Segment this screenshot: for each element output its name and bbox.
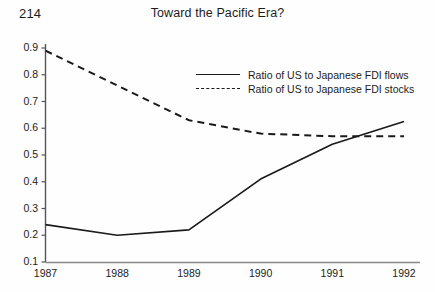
chart-svg [0, 0, 435, 292]
y-axis-tick-label: 0.2 [12, 228, 38, 240]
y-axis-tick-label: 0.4 [12, 175, 38, 187]
legend-item-stocks: Ratio of US to Japanese FDI stocks [196, 82, 428, 95]
x-axis-tick-label: 1989 [164, 267, 214, 279]
legend-item-flows: Ratio of US to Japanese FDI flows [196, 68, 428, 81]
legend-swatch-solid-line-icon [196, 70, 240, 80]
y-axis-tick-label: 0.9 [12, 41, 38, 53]
y-axis-tick-label: 0.8 [12, 68, 38, 80]
legend-swatch-dashed-line-icon [196, 84, 240, 94]
x-axis-tick-label: 1991 [307, 267, 357, 279]
series-line-flows [46, 122, 405, 236]
x-axis-tick-label: 1990 [236, 267, 286, 279]
x-axis-tick-label: 1987 [21, 267, 71, 279]
x-axis-tick-label: 1988 [92, 267, 142, 279]
y-axis-tick-label: 0.3 [12, 202, 38, 214]
y-axis-tick-label: 0.1 [12, 255, 38, 267]
line-chart-figure: 0.10.20.30.40.50.60.70.80.9 198719881989… [0, 0, 435, 292]
x-axis-tick-label: 1992 [379, 267, 429, 279]
chart-legend: Ratio of US to Japanese FDI flows Ratio … [196, 68, 428, 96]
legend-label-flows: Ratio of US to Japanese FDI flows [240, 69, 409, 81]
y-axis-tick-label: 0.6 [12, 121, 38, 133]
y-axis-tick-label: 0.7 [12, 95, 38, 107]
legend-label-stocks: Ratio of US to Japanese FDI stocks [240, 83, 414, 95]
y-axis-tick-label: 0.5 [12, 148, 38, 160]
page-canvas: 214 Toward the Pacific Era? 0.10.20.30.4… [0, 0, 435, 292]
